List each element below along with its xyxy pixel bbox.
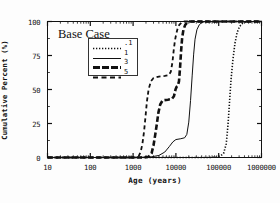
legend-swatch-solid bbox=[92, 49, 122, 58]
legend-label: 5 bbox=[124, 68, 128, 77]
y-tick-label: 25 bbox=[0, 119, 41, 128]
legend-item: 5 bbox=[89, 68, 137, 78]
x-tick-label: 100000 bbox=[206, 163, 231, 172]
x-axis-title: Age (years) bbox=[128, 176, 182, 185]
legend-label: 3 bbox=[124, 58, 128, 67]
legend-swatch-dotted bbox=[92, 39, 122, 48]
legend-item: .1 bbox=[89, 39, 137, 49]
y-tick-label: 75 bbox=[0, 51, 41, 60]
y-tick-label: 0 bbox=[0, 153, 41, 162]
figure: Base Case .1 1 3 5 Age (years) Cumulativ… bbox=[0, 0, 280, 203]
legend-item: 1 bbox=[89, 49, 137, 59]
legend-label: 1 bbox=[124, 49, 128, 58]
x-tick-label: 100 bbox=[84, 163, 96, 172]
legend: .1 1 3 5 bbox=[88, 38, 138, 76]
x-tick-label: 1000 bbox=[125, 163, 142, 172]
chart-svg bbox=[0, 0, 280, 203]
x-tick-label: 10 bbox=[43, 163, 51, 172]
y-tick-label: 50 bbox=[0, 85, 41, 94]
y-tick-label: 100 bbox=[0, 17, 41, 26]
x-tick-label: 10000 bbox=[166, 163, 187, 172]
x-tick-label: 1000000 bbox=[247, 163, 276, 172]
legend-label: .1 bbox=[124, 39, 132, 48]
legend-swatch-thick-dash bbox=[92, 58, 122, 67]
legend-swatch-dashed bbox=[92, 68, 122, 77]
legend-item: 3 bbox=[89, 58, 137, 68]
